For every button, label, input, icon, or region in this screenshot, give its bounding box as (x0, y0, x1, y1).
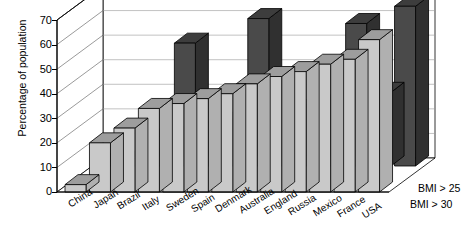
y-tickmark-70 (52, 20, 57, 21)
y-axis-tick-labels: 70 60 50 40 30 20 10 0 (24, 0, 52, 246)
bmi-30-bar-side-11 (391, 82, 404, 166)
bmi-25-bar-side-9 (306, 62, 319, 192)
bmi-25-bar-side-2 (135, 118, 148, 192)
bmi-25-bar-side-10 (331, 54, 344, 192)
y-tick-30: 30 (26, 113, 52, 123)
y-tickmark-40 (52, 94, 57, 95)
y-tickmark-0 (52, 192, 57, 193)
y-tick-0: 0 (26, 186, 52, 196)
y-tick-40: 40 (26, 88, 52, 98)
y-tickmark-50 (52, 69, 57, 70)
legend-label-bmi-30: BMI > 30 (410, 198, 452, 210)
y-tickmark-10 (52, 167, 57, 168)
bmi-25-bar-side-7 (257, 74, 270, 192)
y-tickmark-20 (52, 143, 57, 144)
bmi-30-bar-side-12 (416, 0, 429, 166)
y-tickmark-30 (52, 118, 57, 119)
y-tick-10: 10 (26, 162, 52, 172)
y-tick-20: 20 (26, 137, 52, 147)
bmi-25-bar-side-5 (208, 89, 221, 192)
chart-figure: Percentage of population 70 60 50 40 30 … (0, 0, 476, 246)
plot-area (57, 14, 405, 196)
y-tick-50: 50 (26, 64, 52, 74)
bmi-25-bar-side-4 (184, 94, 197, 192)
bmi-25-bar-side-12 (380, 30, 393, 192)
legend-label-bmi-25: BMI > 25 (418, 182, 460, 194)
y-tick-60: 60 (26, 39, 52, 49)
bmi-25-bar-side-6 (233, 84, 246, 192)
bmi-25-bar-side-3 (159, 98, 172, 192)
y-tick-70: 70 (26, 15, 52, 25)
bmi-25-bar-side-8 (282, 67, 295, 192)
bmi-25-bar-side-11 (355, 49, 368, 192)
y-tickmark-60 (52, 45, 57, 46)
